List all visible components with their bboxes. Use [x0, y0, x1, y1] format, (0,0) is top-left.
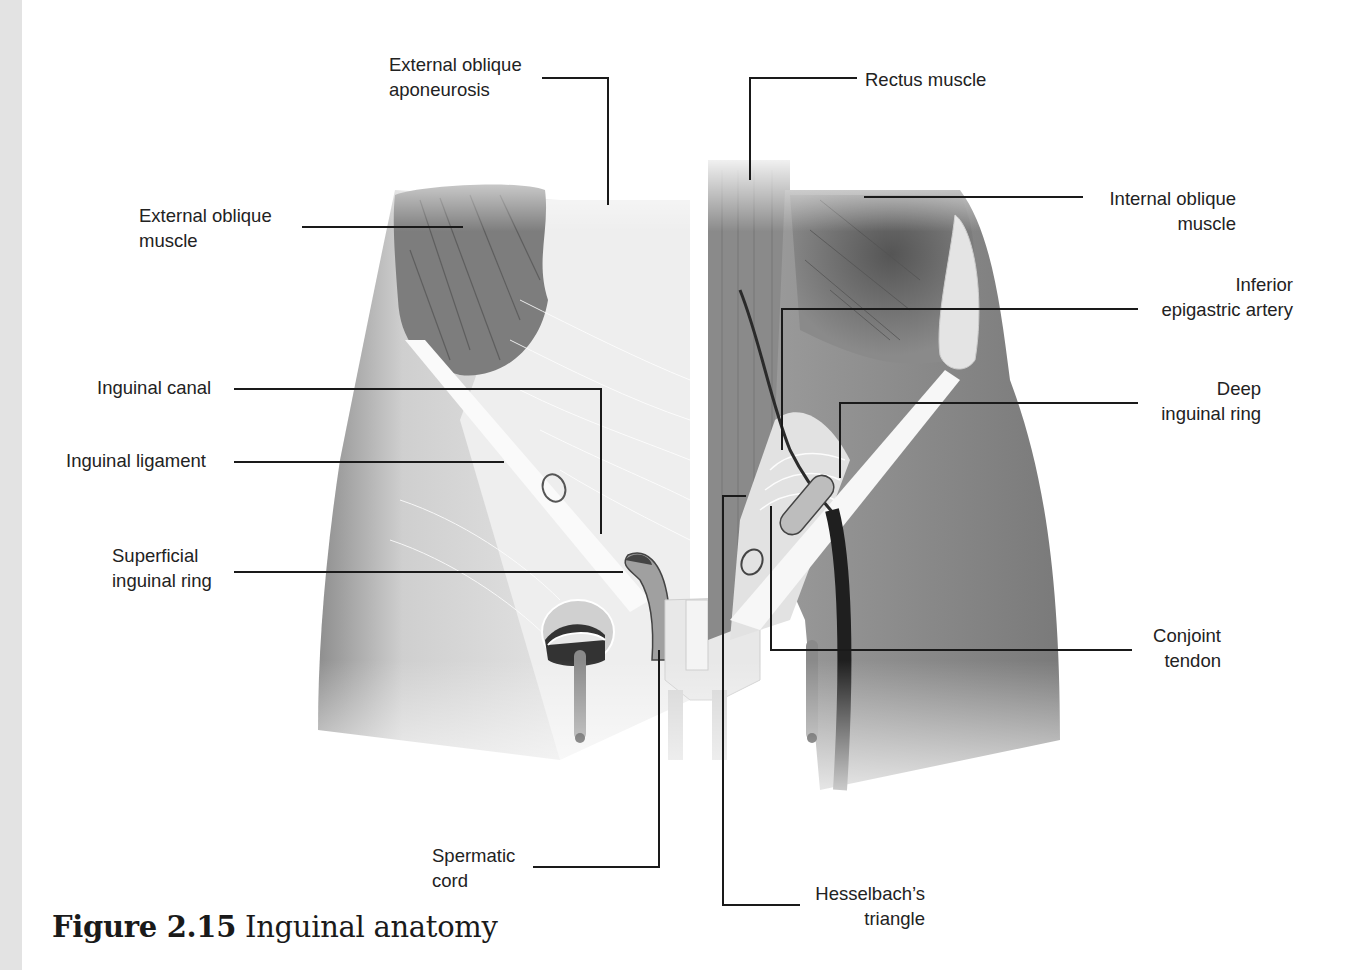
label-external-oblique-aponeurosis: External oblique aponeurosis — [389, 52, 522, 102]
label-conjoint-tendon: Conjoint tendon — [1153, 623, 1221, 673]
label-inguinal-ligament: Inguinal ligament — [66, 448, 206, 473]
label-hesselbachs-triangle: Hesselbach’s triangle — [815, 881, 925, 931]
label-spermatic-cord: Spermatic cord — [432, 843, 515, 893]
label-inguinal-canal: Inguinal canal — [97, 375, 211, 400]
figure-number: Figure 2.15 — [52, 910, 236, 944]
label-inferior-epigastric-artery: Inferior epigastric artery — [1161, 272, 1293, 322]
label-internal-oblique-muscle: Internal oblique muscle — [1109, 186, 1236, 236]
figure-caption: Figure 2.15 Inguinal anatomy — [52, 910, 498, 944]
label-rectus-muscle: Rectus muscle — [865, 67, 986, 92]
label-external-oblique-muscle: External oblique muscle — [139, 203, 272, 253]
figure-title: Inguinal anatomy — [245, 910, 498, 944]
label-superficial-inguinal-ring: Superficial inguinal ring — [112, 543, 212, 593]
label-deep-inguinal-ring: Deep inguinal ring — [1161, 376, 1261, 426]
inguinal-anatomy-illustration — [0, 0, 1349, 970]
